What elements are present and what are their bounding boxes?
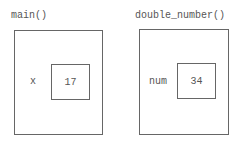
variable-name-num: num [149,76,167,87]
variable-name-x: x [30,76,36,87]
frame-double-number-title: double_number() [135,10,225,21]
variable-value-box-num: 34 [177,63,216,99]
frame-main-title: main() [11,10,47,21]
variable-value-box-x: 17 [51,64,90,100]
